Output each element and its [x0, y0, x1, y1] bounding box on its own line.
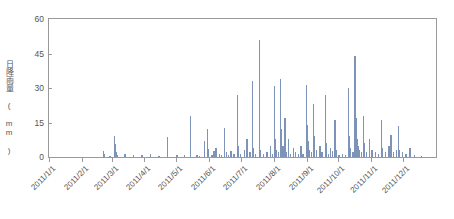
x-axis-tick-mark	[144, 158, 145, 162]
rainfall-chart: 日降雨量 ( mm ) 015304560 2011/1/12011/2/120…	[0, 0, 454, 219]
bar	[259, 40, 260, 157]
bar	[124, 154, 125, 157]
bar	[399, 150, 400, 157]
x-axis-tick-mark	[307, 158, 308, 162]
bar	[332, 151, 333, 157]
bar	[302, 154, 303, 157]
x-axis-tick-mark	[176, 158, 177, 162]
y-axis-tick-label: 0	[22, 152, 44, 162]
bar	[282, 146, 283, 158]
bar	[133, 155, 134, 157]
bar	[199, 156, 200, 157]
bar	[378, 154, 379, 157]
bar	[141, 155, 142, 157]
bar	[266, 152, 267, 157]
bar	[321, 152, 322, 157]
bar	[409, 148, 410, 157]
bar	[385, 152, 386, 157]
bar	[208, 149, 209, 157]
x-axis-tick-mark	[112, 158, 113, 162]
bar	[290, 154, 291, 157]
bar	[270, 146, 271, 158]
bar	[366, 152, 367, 157]
bar	[263, 154, 264, 157]
y-axis-tick-mark	[48, 123, 52, 124]
bar	[335, 150, 336, 157]
bar	[298, 154, 299, 157]
y-axis-tick-label: 30	[22, 83, 44, 93]
bar	[158, 156, 159, 157]
bar	[388, 146, 389, 158]
bar	[278, 152, 279, 157]
bar	[226, 152, 227, 157]
bar	[414, 155, 415, 157]
bar	[328, 154, 329, 157]
bar	[314, 136, 315, 157]
bar	[361, 152, 362, 157]
y-axis-tick-label: 15	[22, 118, 44, 128]
y-axis-tick-mark	[48, 54, 52, 55]
bar	[382, 148, 383, 157]
bar	[371, 150, 372, 157]
bar	[255, 154, 256, 157]
x-axis-tick-mark	[338, 158, 339, 162]
bar	[150, 154, 151, 157]
x-axis-tick-mark	[274, 158, 275, 162]
x-axis-tick-mark	[371, 158, 372, 162]
bar	[204, 141, 205, 157]
bar	[293, 148, 294, 157]
bar	[230, 151, 231, 157]
bar	[285, 152, 286, 157]
bar	[246, 139, 247, 157]
bar	[402, 152, 403, 157]
y-axis-tick-mark	[48, 88, 52, 89]
bar	[396, 150, 397, 157]
bar	[311, 152, 312, 157]
bar	[167, 137, 168, 157]
bar	[405, 154, 406, 157]
bar	[190, 116, 191, 157]
bar	[421, 156, 422, 157]
bar	[117, 155, 118, 157]
bar	[211, 155, 212, 157]
bar	[176, 155, 177, 157]
x-axis-tick-mark	[209, 158, 210, 162]
bar	[390, 135, 391, 157]
bar	[276, 150, 277, 157]
x-axis-tick-mark	[49, 158, 50, 162]
x-axis-tick-mark	[82, 158, 83, 162]
bar	[352, 152, 353, 157]
bar	[369, 139, 370, 157]
bar	[238, 146, 239, 158]
bar	[272, 154, 273, 157]
y-axis-tick-label: 45	[22, 49, 44, 59]
bar	[393, 152, 394, 157]
plot-area	[49, 19, 436, 157]
bar	[184, 155, 185, 157]
bar	[319, 146, 320, 158]
bar	[309, 150, 310, 157]
bar	[252, 81, 253, 157]
bar	[288, 139, 289, 157]
bar	[215, 148, 216, 157]
bar	[221, 155, 222, 157]
bar	[359, 150, 360, 157]
bar	[375, 152, 376, 157]
bar	[330, 148, 331, 157]
bar	[224, 128, 225, 157]
y-axis-tick-label: 60	[22, 14, 44, 24]
bar	[249, 152, 250, 157]
bar	[364, 143, 365, 157]
bar	[350, 148, 351, 157]
x-axis-tick-mark	[403, 158, 404, 162]
bar	[345, 155, 346, 157]
bar	[219, 154, 220, 157]
y-axis-title: 日降雨量 ( mm )	[2, 52, 16, 162]
bar	[240, 154, 241, 157]
bar	[228, 155, 229, 157]
bar	[260, 150, 261, 157]
bar	[338, 155, 339, 157]
bar	[233, 154, 234, 157]
bar	[295, 152, 296, 157]
bar	[300, 146, 301, 158]
